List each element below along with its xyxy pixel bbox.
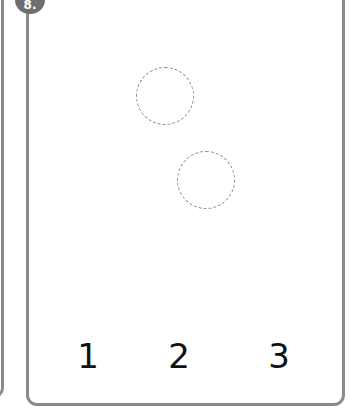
dashed-circle-1 — [136, 67, 194, 125]
number-1: 1 — [77, 336, 99, 376]
number-2: 2 — [168, 336, 190, 376]
dashed-circle-2 — [177, 151, 235, 209]
number-3: 3 — [268, 336, 290, 376]
previous-card-panel — [0, 0, 4, 398]
badge-label: 8. — [24, 0, 37, 12]
